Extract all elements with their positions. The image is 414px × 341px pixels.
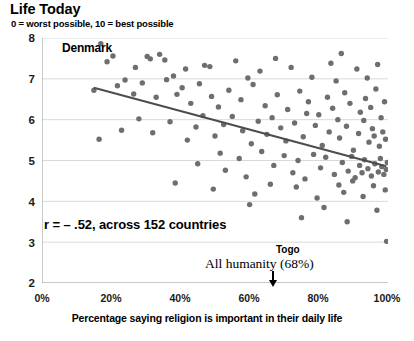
data-point — [382, 99, 387, 104]
data-point — [131, 91, 136, 96]
data-point — [371, 183, 376, 188]
data-point — [359, 170, 364, 175]
data-point — [330, 106, 335, 111]
data-point — [354, 66, 359, 71]
x-tick-label: 100% — [365, 292, 409, 304]
data-point — [346, 168, 351, 173]
data-point — [360, 194, 365, 199]
data-point — [164, 77, 169, 82]
data-point — [314, 195, 319, 200]
chart-subtitle: 0 = worst possible, 10 = best possible — [11, 18, 173, 29]
data-point — [211, 186, 216, 191]
data-point — [371, 133, 376, 138]
data-point — [256, 119, 261, 124]
data-point — [150, 130, 155, 135]
data-point — [179, 85, 184, 90]
data-point — [380, 129, 385, 134]
data-point — [311, 152, 316, 157]
data-point — [273, 56, 278, 61]
x-tick-label: 40% — [158, 292, 202, 304]
data-point — [325, 95, 330, 100]
data-point — [262, 103, 267, 108]
data-point — [378, 156, 383, 161]
y-tick-label: 8 — [5, 32, 35, 44]
data-point — [193, 124, 198, 129]
data-point — [337, 135, 342, 140]
data-point — [326, 129, 331, 134]
data-point — [335, 117, 340, 122]
data-point — [383, 137, 388, 142]
data-point — [373, 86, 378, 91]
data-point — [278, 125, 283, 130]
data-point — [378, 115, 383, 120]
data-point — [185, 137, 190, 142]
data-point — [238, 97, 243, 102]
data-point — [342, 90, 347, 95]
data-point — [216, 104, 221, 109]
all-humanity-arrow-icon — [266, 271, 280, 287]
x-tick-label: 80% — [296, 292, 340, 304]
data-point — [313, 123, 318, 128]
data-point — [217, 150, 222, 155]
data-point — [233, 58, 238, 63]
data-point — [320, 143, 325, 148]
data-point — [306, 99, 311, 104]
data-point — [153, 95, 158, 100]
data-point — [252, 191, 257, 196]
y-tick-label: 2 — [5, 277, 35, 289]
data-point — [212, 133, 217, 138]
data-point — [157, 52, 162, 57]
y-tick-label: 7 — [5, 73, 35, 85]
data-point — [357, 163, 362, 168]
data-point — [188, 101, 193, 106]
data-point — [341, 190, 346, 195]
data-point — [288, 65, 293, 70]
data-point — [202, 63, 207, 68]
data-point — [294, 184, 299, 189]
data-point — [259, 149, 264, 154]
data-point — [358, 110, 363, 115]
scatter-chart: Life Today 0 = worst possible, 10 = best… — [0, 0, 414, 341]
chart-title: Life Today — [10, 1, 80, 17]
y-tick-label: 3 — [5, 237, 35, 249]
y-tick-label: 4 — [5, 196, 35, 208]
data-point — [174, 92, 179, 97]
data-point — [275, 92, 280, 97]
correlation-annotation: r = – .52, across 152 countries — [44, 217, 226, 232]
data-point — [366, 139, 371, 144]
data-point — [374, 208, 379, 213]
data-point — [344, 219, 349, 224]
y-tick-label: 6 — [5, 114, 35, 126]
data-point — [340, 160, 345, 165]
data-point — [384, 239, 388, 244]
data-point — [115, 83, 120, 88]
data-point — [321, 205, 326, 210]
plot-canvas — [42, 38, 388, 283]
data-point — [377, 144, 382, 149]
data-point — [245, 75, 250, 80]
data-point — [316, 112, 321, 117]
data-point — [282, 153, 287, 158]
data-point — [122, 77, 127, 82]
data-point — [162, 57, 167, 62]
data-point — [333, 78, 338, 83]
data-point — [301, 134, 306, 139]
data-point — [269, 115, 274, 120]
data-point — [299, 215, 304, 220]
data-point — [250, 82, 255, 87]
data-point — [173, 180, 178, 185]
data-point — [368, 105, 373, 110]
data-point — [226, 88, 231, 93]
data-point — [295, 158, 300, 163]
data-point — [104, 59, 109, 64]
data-point — [96, 137, 101, 142]
data-point — [249, 141, 254, 146]
data-point — [344, 124, 349, 129]
data-point — [207, 64, 212, 69]
data-point — [363, 96, 368, 101]
data-point — [323, 155, 328, 160]
data-point — [302, 176, 307, 181]
data-point — [292, 120, 297, 125]
data-point — [290, 170, 295, 175]
data-point — [361, 118, 366, 123]
